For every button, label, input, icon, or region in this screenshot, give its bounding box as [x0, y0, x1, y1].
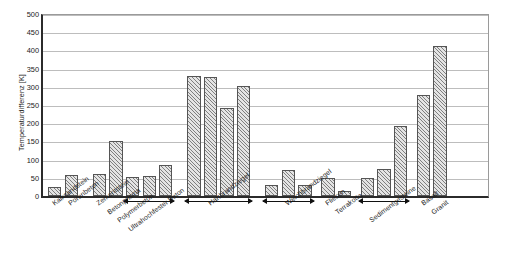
y-axis-tick-label: 200: [14, 119, 39, 128]
y-axis-tick-label: 250: [14, 101, 39, 110]
bar: [417, 95, 430, 196]
bar-series: [43, 14, 488, 196]
y-axis-tick-label: 400: [14, 46, 39, 55]
y-axis-tick-label: 500: [14, 10, 39, 19]
x-axis-category-labels: KalksandsteinPorenbetonZementsteinBetonp…: [0, 196, 509, 273]
bar: [159, 165, 172, 196]
y-axis-tick-labels: 050100150200250300350400450500: [14, 14, 39, 198]
y-axis-tick-label: 100: [14, 155, 39, 164]
bar: [265, 185, 278, 196]
bar: [204, 77, 217, 196]
x-axis-category-label: Granit: [430, 198, 449, 215]
y-axis-tick-label: 150: [14, 137, 39, 146]
bar: [282, 170, 295, 196]
bar: [187, 76, 200, 196]
bar: [394, 126, 407, 196]
y-axis-tick-label: 50: [14, 173, 39, 182]
bar-chart: Temperaturdifferenz [K] 0501001502002503…: [0, 0, 509, 273]
y-axis-tick-label: 450: [14, 28, 39, 37]
bar: [361, 178, 374, 196]
bar: [377, 169, 390, 196]
bar: [433, 46, 446, 196]
y-axis-tick-label: 300: [14, 82, 39, 91]
y-axis-tick-label: 350: [14, 64, 39, 73]
